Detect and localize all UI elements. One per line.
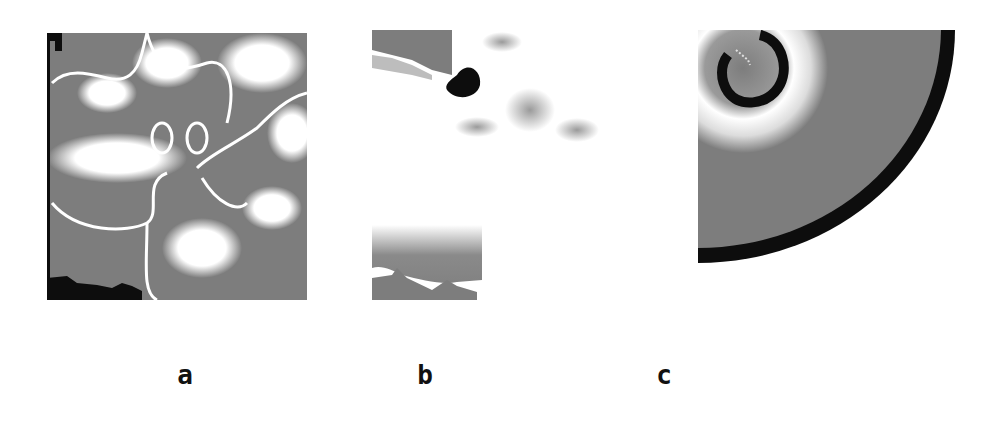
panel-c-pattern [698, 30, 958, 265]
panel-a-image [47, 33, 307, 300]
panel-b-pattern [372, 30, 632, 300]
panel-label-a: a [165, 360, 205, 390]
panel-label-b: b [405, 360, 445, 390]
panel-b-image [372, 30, 632, 300]
panel-a-pattern [47, 33, 307, 300]
panel-label-c: c [644, 360, 684, 390]
panel-c-image [698, 30, 958, 265]
